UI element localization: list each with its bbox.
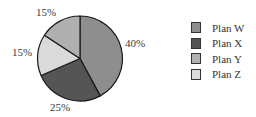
pie-slices xyxy=(37,16,122,101)
legend-item-plan-y: Plan Y xyxy=(191,51,245,67)
slice-label-plan-z: 15% xyxy=(12,47,32,58)
legend-label-plan-x: Plan X xyxy=(212,37,242,49)
legend-swatch-plan-x xyxy=(191,38,201,49)
legend-swatch-plan-w xyxy=(191,22,201,33)
legend-swatch-plan-z xyxy=(191,69,201,80)
legend-item-plan-x: Plan X xyxy=(191,36,245,52)
legend-label-plan-y: Plan Y xyxy=(212,53,242,65)
legend-label-plan-z: Plan Z xyxy=(212,68,241,80)
legend-label-plan-w: Plan W xyxy=(212,22,245,34)
slice-label-plan-x: 25% xyxy=(50,102,70,113)
slice-label-plan-y: 15% xyxy=(36,7,56,18)
legend-item-plan-z: Plan Z xyxy=(191,67,245,83)
legend-item-plan-w: Plan W xyxy=(191,20,245,36)
legend: Plan W Plan X Plan Y Plan Z xyxy=(191,20,245,82)
slice-label-plan-w: 40% xyxy=(125,38,145,49)
legend-swatch-plan-y xyxy=(191,53,201,64)
